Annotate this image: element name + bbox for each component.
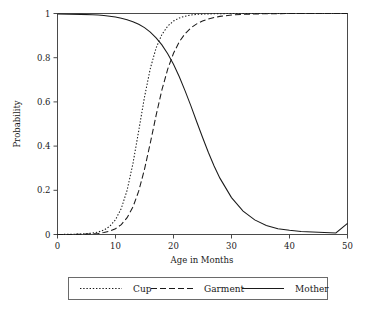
chart-figure: 01020304050 00.20.40.60.81 Age in Months… (0, 0, 367, 312)
y-tick-label: 0.6 (37, 97, 51, 107)
data-series-group (58, 14, 348, 235)
y-tick-label: 1 (45, 9, 50, 19)
series-cup (58, 14, 348, 235)
y-tick-label: 0.8 (37, 53, 51, 63)
probability-line-chart: 01020304050 00.20.40.60.81 Age in Months… (0, 0, 367, 312)
y-axis-ticks: 00.20.40.60.81 (37, 9, 58, 240)
y-axis-label: Probability (12, 100, 22, 147)
legend-label-mother: Mother (295, 284, 329, 294)
chart-legend: CupGarmentMother (69, 278, 330, 300)
x-tick-label: 50 (342, 241, 353, 251)
legend-box (69, 278, 328, 300)
x-tick-label: 10 (110, 241, 121, 251)
y-tick-label: 0.4 (37, 141, 51, 151)
legend-label-cup: Cup (133, 284, 152, 294)
series-mother (58, 14, 348, 233)
series-garment (58, 14, 348, 235)
legend-label-garment: Garment (204, 284, 245, 294)
plot-frame (58, 14, 348, 235)
x-tick-label: 40 (284, 241, 295, 251)
y-tick-label: 0.2 (37, 185, 51, 195)
x-axis-label: Age in Months (170, 255, 234, 265)
x-tick-label: 0 (55, 241, 60, 251)
legend-items: CupGarmentMother (80, 284, 329, 294)
x-tick-label: 30 (226, 241, 237, 251)
x-axis-ticks: 01020304050 (55, 235, 353, 251)
x-tick-label: 20 (168, 241, 179, 251)
y-tick-label: 0 (45, 230, 50, 240)
